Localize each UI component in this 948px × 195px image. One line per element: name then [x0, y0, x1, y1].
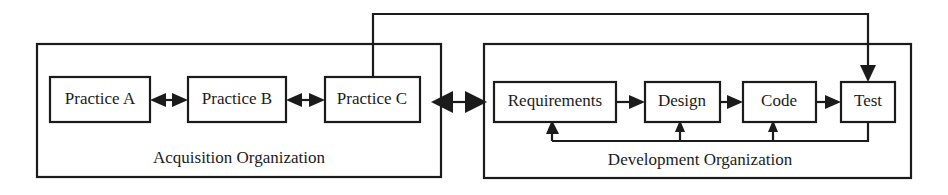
design-label: Design	[658, 91, 707, 110]
code-to-test-arrowhead	[825, 95, 841, 109]
connector-practice-c-to-test	[373, 14, 876, 82]
practice-a-label: Practice A	[65, 89, 136, 108]
connector-acquisition-to-development	[431, 91, 487, 113]
diagram-canvas: Acquisition Organization Development Org…	[0, 0, 948, 195]
practice-c-label: Practice C	[337, 89, 407, 108]
practice-b-to-practice-c-arrowhead-right	[309, 93, 325, 107]
development-organization-label: Development Organization	[608, 150, 793, 169]
practice-b-to-practice-c-arrowhead-left	[286, 93, 302, 107]
practice-c-to-test-path	[373, 14, 868, 77]
design-to-code-arrowhead	[727, 95, 743, 109]
node-practice-a[interactable]: Practice A	[50, 77, 150, 122]
connector-code-to-test	[816, 95, 841, 109]
node-practice-c[interactable]: Practice C	[325, 77, 420, 122]
code-label: Code	[761, 91, 797, 110]
practice-b-label: Practice B	[202, 89, 272, 108]
node-code[interactable]: Code	[743, 82, 816, 122]
node-requirements[interactable]: Requirements	[494, 82, 616, 122]
connector-practice-b-to-practice-c	[286, 93, 325, 107]
practice-a-to-practice-b-arrowhead-right	[172, 93, 188, 107]
requirements-to-design-arrowhead	[629, 95, 645, 109]
connector-test-feedback-bus	[546, 120, 868, 141]
node-practice-b[interactable]: Practice B	[188, 77, 286, 122]
connector-design-to-code	[720, 95, 743, 109]
practice-a-to-practice-b-arrowhead-left	[150, 93, 166, 107]
connector-practice-a-to-practice-b	[150, 93, 188, 107]
node-design[interactable]: Design	[645, 82, 720, 122]
test-label: Test	[854, 91, 882, 110]
acquisition-organization-label: Acquisition Organization	[153, 148, 326, 167]
practice-c-to-test-arrowhead	[860, 65, 876, 82]
diagram-svg: Acquisition Organization Development Org…	[0, 0, 948, 195]
test-feedback-bus-path	[552, 122, 868, 141]
requirements-label: Requirements	[508, 91, 602, 110]
connector-requirements-to-design	[616, 95, 645, 109]
node-test[interactable]: Test	[841, 82, 895, 122]
